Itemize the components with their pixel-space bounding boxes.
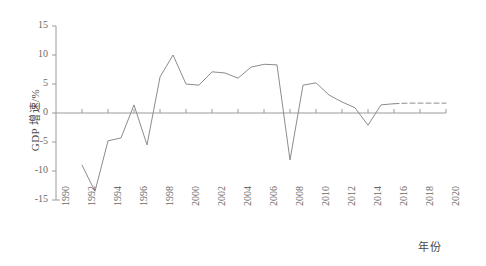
series-layer bbox=[82, 55, 446, 191]
x-tick-label: 1992 bbox=[86, 186, 97, 206]
y-tick-label: 10 bbox=[18, 48, 48, 59]
y-tick-label: -15 bbox=[18, 193, 48, 204]
x-tick-label: 2012 bbox=[346, 186, 357, 206]
x-tick-label: 2002 bbox=[216, 186, 227, 206]
x-tick-label: 1998 bbox=[164, 186, 175, 206]
x-tick-label: 2008 bbox=[294, 186, 305, 206]
x-tick-label: 2018 bbox=[424, 186, 435, 206]
x-tick-label: 2010 bbox=[320, 186, 331, 206]
x-tick-label: 2006 bbox=[268, 186, 279, 206]
y-tick-label: 5 bbox=[18, 77, 48, 88]
data-series-line-0 bbox=[82, 55, 394, 191]
x-tick-label: 2014 bbox=[372, 186, 383, 206]
x-tick-label: 2016 bbox=[398, 186, 409, 206]
axes-layer bbox=[52, 26, 446, 200]
x-tick-label: 1990 bbox=[60, 186, 71, 206]
chart-figure: GDP 增速/% 年份 151050-5-10-15 1990199219941… bbox=[0, 0, 486, 266]
x-tick-label: 2004 bbox=[242, 186, 253, 206]
x-tick-label: 2000 bbox=[190, 186, 201, 206]
x-tick-label: 2020 bbox=[450, 186, 461, 206]
data-series-line-1 bbox=[394, 103, 446, 104]
y-tick-label: 0 bbox=[18, 106, 48, 117]
x-tick-label: 1994 bbox=[112, 186, 123, 206]
y-tick-label: 15 bbox=[18, 19, 48, 30]
y-tick-label: -10 bbox=[18, 164, 48, 175]
x-tick-label: 1996 bbox=[138, 186, 149, 206]
y-tick-label: -5 bbox=[18, 135, 48, 146]
chart-plot-area bbox=[0, 0, 486, 266]
